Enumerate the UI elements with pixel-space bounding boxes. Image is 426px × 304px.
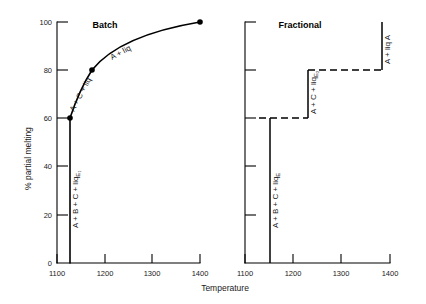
left-data-point-1 bbox=[67, 115, 73, 121]
left-ytick-label-60: 60 bbox=[44, 114, 52, 123]
right-xtick-label-1100: 1100 bbox=[237, 269, 253, 278]
left-data-point-2 bbox=[89, 67, 95, 73]
left-ytick-label-20: 20 bbox=[44, 211, 52, 220]
left-xtick-label-1400: 1400 bbox=[192, 269, 209, 278]
left-panel-batch: 100 80 60 40 20 0 1100 1200 1300 1400 Ba… bbox=[39, 18, 208, 278]
left-data-point-3 bbox=[197, 19, 203, 25]
partial-melting-figure: 100 80 60 40 20 0 1100 1200 1300 1400 Ba… bbox=[0, 0, 426, 304]
left-ytick-label-80: 80 bbox=[44, 66, 52, 75]
left-panel-title: Batch bbox=[92, 20, 117, 30]
right-field-label-upper: A + liq A bbox=[383, 34, 392, 64]
left-field-label-mid: A + C + liq bbox=[68, 76, 93, 113]
right-xtick-label-1400: 1400 bbox=[382, 269, 399, 278]
right-panel-title: Fractional bbox=[278, 20, 321, 30]
y-axis-title: % partial melting bbox=[23, 127, 33, 190]
left-field-label-lower: A + B + C + liqE₁ bbox=[71, 171, 81, 228]
right-panel-fractional: 1100 1200 1300 1400 Fractional A + B + C… bbox=[237, 20, 398, 278]
left-xtick-label-1200: 1200 bbox=[97, 269, 114, 278]
left-xtick-label-1100: 1100 bbox=[49, 269, 65, 278]
right-xtick-label-1300: 1300 bbox=[333, 269, 350, 278]
right-xtick-label-1200: 1200 bbox=[285, 269, 302, 278]
left-ytick-label-100: 100 bbox=[39, 18, 52, 27]
x-axis-title: Temperature bbox=[201, 283, 249, 293]
right-field-label-lower: A + B + C + liqE bbox=[271, 173, 281, 228]
left-ytick-label-40: 40 bbox=[44, 162, 52, 171]
left-xtick-label-1300: 1300 bbox=[144, 269, 161, 278]
right-field-label-mid: A + C + liqE₂ bbox=[309, 70, 319, 114]
left-ytick-label-0: 0 bbox=[48, 259, 52, 268]
